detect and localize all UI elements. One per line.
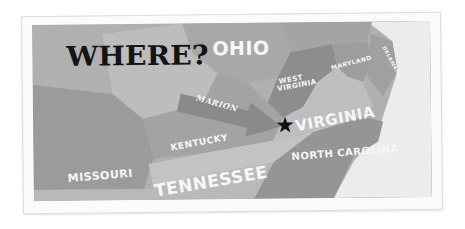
star-icon: ★ bbox=[275, 114, 295, 136]
label-ohio: OHIO bbox=[212, 39, 269, 59]
map: OHIO WEST VIRGINIA MARYLAND DELAWARE VIR… bbox=[32, 21, 432, 201]
page-title: WHERE? bbox=[66, 39, 208, 71]
map-card: OHIO WEST VIRGINIA MARYLAND DELAWARE VIR… bbox=[21, 12, 443, 214]
